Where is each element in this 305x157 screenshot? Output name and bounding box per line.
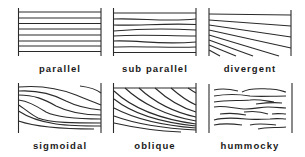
panel-hummocky: [206, 81, 294, 133]
panel-divergent: [206, 6, 294, 58]
panel-oblique: [111, 81, 199, 133]
panel-parallel: [16, 6, 104, 58]
label-parallel: parallel: [16, 63, 104, 74]
divergent-reflections-figure: [206, 6, 294, 58]
hummocky-reflections-figure: [206, 81, 294, 133]
sub-parallel-reflections-figure: [111, 6, 199, 58]
panel-sub-parallel: [111, 6, 199, 58]
label-sigmoidal: sigmoidal: [16, 140, 104, 151]
label-divergent: divergent: [206, 63, 294, 74]
label-oblique: oblique: [111, 140, 199, 151]
label-hummocky: hummocky: [206, 140, 294, 151]
parallel-reflections-figure: [16, 6, 104, 58]
panel-sigmoidal: [16, 81, 104, 133]
sigmoidal-reflections-figure: [16, 81, 104, 133]
label-sub-parallel: sub parallel: [111, 63, 199, 74]
oblique-reflections-figure: [111, 81, 199, 133]
